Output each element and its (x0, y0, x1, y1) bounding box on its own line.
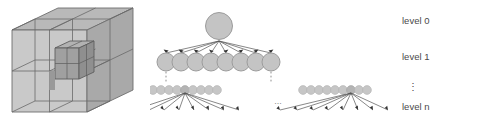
tree-node-small (197, 86, 206, 95)
tree-node-small (363, 86, 372, 95)
tree-node-small (323, 86, 332, 95)
tree-node-l1 (262, 53, 280, 71)
cluster-gap-ellipsis: ... (274, 96, 282, 106)
tree-node-small (150, 86, 157, 95)
tree-svg: ... level 0 level 1 ⋮ level n (150, 0, 484, 122)
cube-svg (0, 0, 150, 122)
tree-node-small (339, 86, 348, 95)
octree-tree: ... level 0 level 1 ⋮ level n (150, 0, 484, 122)
edges-to-level-n-left (150, 93, 239, 110)
tree-node-small (331, 86, 340, 95)
cube-inner-nested-cube (55, 41, 94, 79)
tree-node-small (165, 86, 174, 95)
level-label-1: level 1 (402, 51, 429, 62)
small-node-row-right (299, 86, 372, 95)
arrowheads-level1 (164, 49, 274, 53)
octree-figure-page: ... level 0 level 1 ⋮ level n (0, 0, 484, 122)
level-label-vertical-ellipsis: ⋮ (408, 81, 418, 92)
tree-level1-nodes (157, 53, 280, 71)
tree-node-small (307, 86, 316, 95)
level-label-0: level 0 (402, 15, 429, 26)
octree-cube-illustration (0, 0, 150, 122)
highlighted-octant-2 (50, 71, 56, 90)
arrowheads-level-n-right (276, 106, 388, 111)
tree-node-small (157, 86, 166, 95)
tree-node-small (355, 86, 364, 95)
tree-node-small (205, 86, 214, 95)
vertical-dotted-continuation (166, 72, 271, 84)
level-label-n: level n (402, 101, 429, 112)
tree-node-small (315, 86, 324, 95)
tree-node-small (299, 86, 308, 95)
tree-node-small (173, 86, 182, 95)
tree-node-small (213, 86, 222, 95)
tree-node-root (206, 13, 233, 40)
tree-node-small (189, 86, 198, 95)
